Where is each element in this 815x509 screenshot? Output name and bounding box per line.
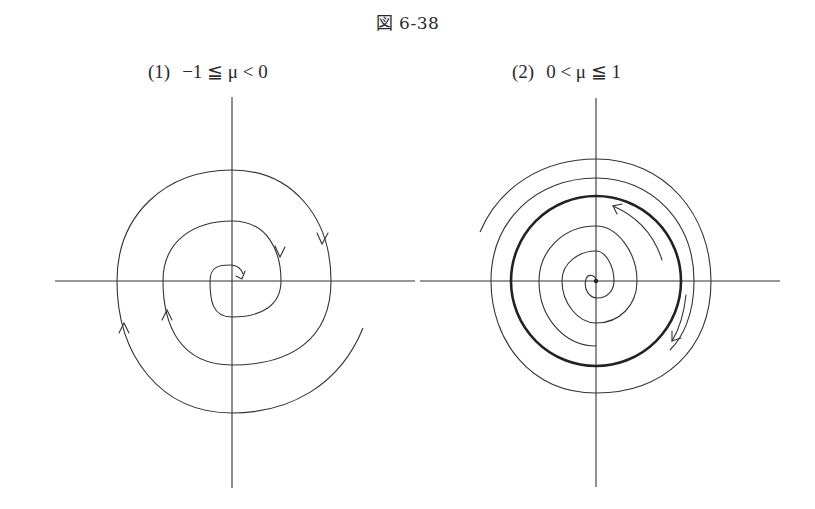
phase-portraits: [0, 0, 815, 509]
panel-2-arrow-icon: [613, 204, 622, 214]
panel-2-phase-portrait: [420, 98, 780, 487]
panel-2-inner-spiral: [539, 226, 637, 346]
panel-2-arrow-icon: [613, 206, 662, 260]
panel-1-spiral-trajectory: [117, 170, 363, 413]
panel-1-phase-portrait: [55, 97, 415, 488]
panel-1-arrow-icon: [236, 271, 245, 279]
